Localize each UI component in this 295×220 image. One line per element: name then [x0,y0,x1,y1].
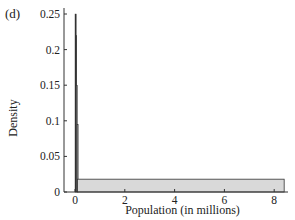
x-tick-label: 6 [222,194,228,206]
y-tick-label: 0.2 [46,44,61,56]
x-tick-label: 8 [271,194,277,206]
y-tick-label: 0 [54,186,60,198]
y-tick-label: 0.1 [46,115,61,127]
histogram-chart: 00.050.10.150.20.2502468 [0,0,295,220]
x-tick-label: 4 [172,194,178,206]
x-tick-label: 2 [122,194,128,206]
y-tick-label: 0.05 [40,150,60,162]
x-tick-label: 0 [72,194,78,206]
histogram-bar [77,179,284,192]
y-tick-label: 0.15 [40,79,60,91]
y-tick-label: 0.25 [40,8,60,20]
